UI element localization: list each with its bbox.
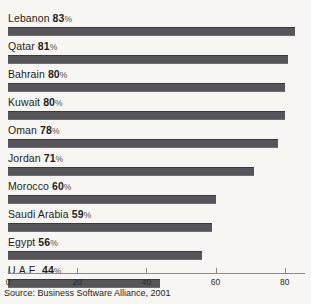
bar-track	[8, 111, 311, 120]
bar-track	[8, 251, 311, 260]
bar-value-suffix: %	[56, 154, 64, 164]
bar-value-suffix: %	[55, 98, 63, 108]
bar-track	[8, 139, 311, 148]
bar-category-label: Lebanon	[8, 12, 50, 24]
x-axis: 020406080	[0, 268, 311, 282]
plot-area: Lebanon83%Qatar81%Bahrain80%Kuwait80%Oma…	[0, 12, 311, 260]
bar-category-label: Kuwait	[8, 96, 40, 108]
bar-label: Oman78%	[8, 124, 60, 136]
bar-row: Qatar81%	[0, 40, 311, 68]
bar-category-label: Jordan	[8, 152, 41, 164]
bar-row: Jordan71%	[0, 152, 311, 180]
bar-row: Saudi Arabia59%	[0, 208, 311, 236]
bar-track	[8, 195, 311, 204]
bar-row: Kuwait80%	[0, 96, 311, 124]
bar-category-label: Saudi Arabia	[8, 208, 69, 220]
bar-value-label: 81	[38, 40, 50, 52]
bar-label: Egypt56%	[8, 236, 58, 248]
x-axis-tick	[285, 268, 286, 273]
bar-label: Lebanon83%	[8, 12, 72, 24]
bar-fill	[8, 27, 295, 36]
bar-value-label: 80	[43, 96, 55, 108]
bar-fill	[8, 139, 278, 148]
bar-category-label: Morocco	[8, 180, 49, 192]
bar-value-label: 60	[52, 180, 64, 192]
bar-label: Qatar81%	[8, 40, 57, 52]
bar-category-label: Bahrain	[8, 68, 45, 80]
x-axis-tick	[146, 268, 147, 273]
bar-value-label: 80	[48, 68, 60, 80]
x-axis-tick-label: 40	[142, 277, 151, 287]
x-axis-tick-label: 80	[280, 277, 289, 287]
x-axis-tick-label: 20	[72, 277, 81, 287]
bar-row: Lebanon83%	[0, 12, 311, 40]
bar-value-suffix: %	[52, 126, 60, 136]
bar-fill	[8, 195, 216, 204]
bar-track	[8, 83, 311, 92]
bar-value-label: 59	[72, 208, 84, 220]
x-axis-line	[8, 273, 305, 274]
bar-row: Bahrain80%	[0, 68, 311, 96]
bar-track	[8, 27, 311, 36]
x-axis-tick-label: 0	[6, 277, 11, 287]
bar-fill	[8, 111, 285, 120]
bar-category-label: Oman	[8, 124, 37, 136]
bar-value-label: 71	[44, 152, 56, 164]
bar-value-suffix: %	[50, 238, 58, 248]
x-axis-tick	[77, 268, 78, 273]
bar-label: Morocco60%	[8, 180, 72, 192]
bar-chart: Lebanon83%Qatar81%Bahrain80%Kuwait80%Oma…	[0, 0, 311, 304]
bar-row: Oman78%	[0, 124, 311, 152]
source-note: Source: Business Software Alliance, 2001	[4, 288, 171, 298]
bar-fill	[8, 223, 212, 232]
bar-row: Egypt56%	[0, 236, 311, 264]
bar-label: Bahrain80%	[8, 68, 67, 80]
bar-value-label: 56	[38, 236, 50, 248]
bar-fill	[8, 167, 254, 176]
bar-value-suffix: %	[84, 210, 92, 220]
bar-value-suffix: %	[50, 42, 58, 52]
bar-track	[8, 55, 311, 64]
bar-fill	[8, 55, 288, 64]
bar-fill	[8, 251, 202, 260]
bar-track	[8, 167, 311, 176]
bar-label: Jordan71%	[8, 152, 63, 164]
bar-value-suffix: %	[60, 70, 68, 80]
bar-row: Morocco60%	[0, 180, 311, 208]
bar-value-label: 78	[40, 124, 52, 136]
x-axis-tick-label: 60	[211, 277, 220, 287]
bar-value-suffix: %	[64, 182, 72, 192]
x-axis-tick	[8, 268, 9, 273]
bar-value-label: 83	[53, 12, 65, 24]
bar-value-suffix: %	[64, 14, 72, 24]
bar-label: Saudi Arabia59%	[8, 208, 91, 220]
bar-fill	[8, 83, 285, 92]
x-axis-tick	[216, 268, 217, 273]
bar-category-label: Qatar	[8, 40, 35, 52]
bar-label: Kuwait80%	[8, 96, 63, 108]
bar-track	[8, 223, 311, 232]
bar-category-label: Egypt	[8, 236, 35, 248]
